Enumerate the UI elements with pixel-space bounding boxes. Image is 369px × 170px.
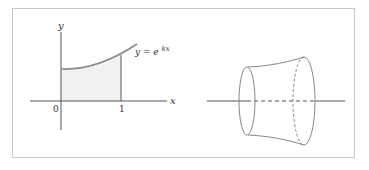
y-axis-label: y bbox=[57, 20, 64, 31]
x-axis-label: x bbox=[170, 95, 176, 106]
tick-label-0: 0 bbox=[53, 104, 59, 114]
figure-canvas: y x 0 1 y = e kx bbox=[0, 0, 369, 170]
tick-label-1: 1 bbox=[119, 104, 125, 114]
bottom-surface-curve bbox=[248, 135, 304, 145]
region-plot: y x 0 1 y = e kx bbox=[30, 20, 176, 130]
curve-equation-base: y = e bbox=[134, 47, 159, 57]
shaded-region bbox=[61, 55, 121, 101]
solid-of-revolution bbox=[207, 57, 345, 145]
curve-equation-label: y = e kx bbox=[134, 45, 170, 57]
curve-equation-exponent: kx bbox=[162, 45, 170, 53]
top-surface-curve bbox=[248, 57, 304, 67]
